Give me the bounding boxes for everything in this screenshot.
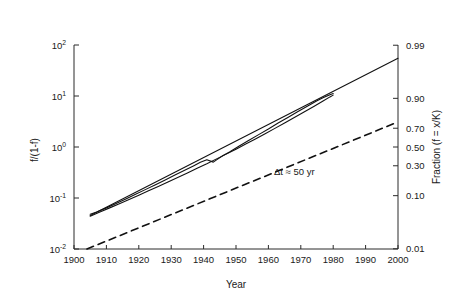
y-tick-label-right: 0.90 <box>406 93 425 104</box>
x-tick-label: 1990 <box>355 254 376 265</box>
x-tick-label: 1940 <box>193 254 214 265</box>
y-tick-label-right: 0.30 <box>406 160 425 171</box>
chart-background <box>0 0 460 296</box>
x-tick-label: 1980 <box>323 254 344 265</box>
y-tick-label-right: 0.50 <box>406 142 425 153</box>
y-tick-label-right: 0.99 <box>406 40 425 51</box>
x-tick-label: 1910 <box>96 254 117 265</box>
x-tick-label: 1920 <box>128 254 149 265</box>
chart-annotations: Δt ≈ 50 yr <box>274 166 315 177</box>
y-axis-left-title: f/(1-f) <box>29 138 40 162</box>
x-tick-label: 1930 <box>161 254 182 265</box>
x-tick-label: 1900 <box>63 254 84 265</box>
y-axis-right-title: Fraction (f = x/K) <box>431 110 442 184</box>
y-tick-label-right: 0.70 <box>406 123 425 134</box>
chart-svg: 10-210-1100101102 0.010.100.300.500.700.… <box>0 0 460 296</box>
y-tick-label-right: 0.10 <box>406 190 425 201</box>
x-tick-label: 2000 <box>387 254 408 265</box>
x-axis-title: Year <box>226 279 247 290</box>
x-tick-label: 1960 <box>258 254 279 265</box>
chart-figure: 10-210-1100101102 0.010.100.300.500.700.… <box>0 0 460 296</box>
y-tick-label-right: 0.01 <box>406 243 425 254</box>
chart-annotation: Δt ≈ 50 yr <box>274 166 315 177</box>
x-tick-label: 1970 <box>290 254 311 265</box>
x-tick-label: 1950 <box>225 254 246 265</box>
